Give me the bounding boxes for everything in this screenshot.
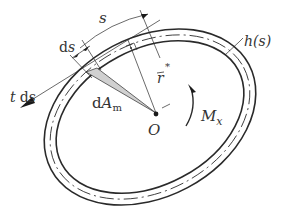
label-ds: ds <box>59 39 75 55</box>
s-arc-dimension <box>80 14 148 48</box>
label-dAm: dAm <box>92 94 122 113</box>
origin-point <box>154 112 159 117</box>
torsion-cross-section-diagram: s ds h(s) r * tds dAm O Mx <box>0 0 286 219</box>
label-moment: Mx <box>200 107 223 128</box>
label-t-ds: tds <box>10 89 36 105</box>
moment-arrow <box>186 88 193 126</box>
label-origin: O <box>148 121 160 139</box>
label-r-star-sup: * <box>165 61 170 72</box>
label-s: s <box>99 9 107 27</box>
label-h-s: h(s) <box>244 33 271 49</box>
t-ds-line <box>25 20 160 104</box>
